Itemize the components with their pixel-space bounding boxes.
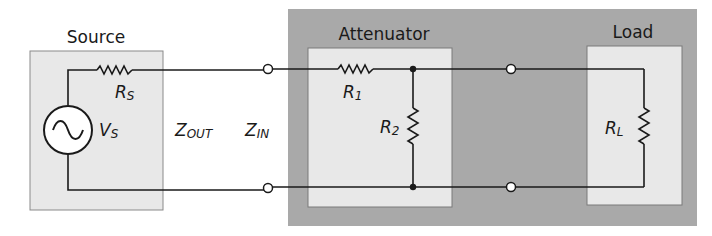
zout-label: ZOUT — [174, 120, 214, 141]
circuit-diagram: Source Attenuator Load — [0, 0, 712, 236]
terminal-out-bottom — [264, 184, 273, 193]
junction-bottom — [410, 184, 416, 190]
attenuator-title: Attenuator — [338, 24, 429, 44]
source-title: Source — [67, 27, 125, 47]
terminal-out-top — [264, 65, 273, 74]
load-box — [587, 46, 682, 205]
junction-top — [410, 66, 416, 72]
ac-source-icon — [44, 106, 92, 154]
zin-label: ZIN — [244, 120, 269, 141]
load-title: Load — [613, 22, 654, 42]
terminal-load-top — [507, 65, 516, 74]
terminal-load-bottom — [507, 183, 516, 192]
